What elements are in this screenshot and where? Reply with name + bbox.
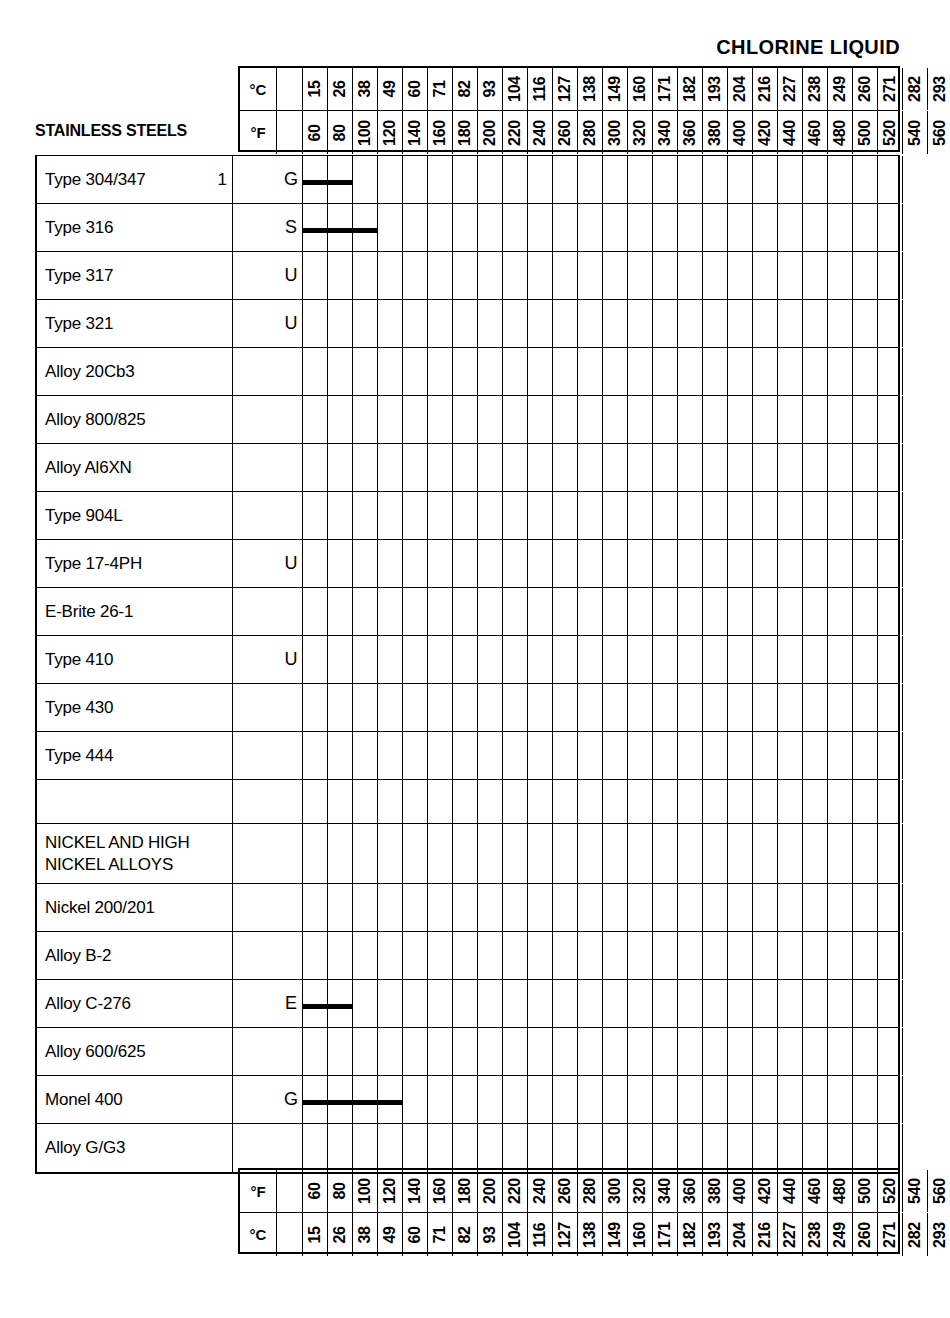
plot-gridline bbox=[827, 732, 828, 779]
axis-tick-label: 216 bbox=[756, 76, 774, 102]
axis-tick-fahrenheit-280: 280 bbox=[577, 1170, 602, 1212]
table-row[interactable]: Type 430 bbox=[37, 684, 898, 732]
table-row[interactable]: Type 444 bbox=[37, 732, 898, 780]
table-row[interactable]: Alloy 20Cb3 bbox=[37, 348, 898, 396]
axis-tick-label: 82 bbox=[456, 1226, 474, 1243]
plot-gridline bbox=[677, 636, 678, 683]
section-heading-label: NICKEL AND HIGH NICKEL ALLOYS bbox=[45, 824, 190, 883]
footnote-marker bbox=[187, 732, 227, 779]
axis-tick-celsius-227: 227 bbox=[777, 68, 802, 110]
table-row[interactable]: Alloy G/G3 bbox=[37, 1124, 898, 1172]
plot-gridline bbox=[752, 636, 753, 683]
plot-gridline bbox=[552, 636, 553, 683]
axis-tick-label: 460 bbox=[806, 120, 824, 146]
plot-gridline bbox=[602, 780, 603, 823]
plot-gridline bbox=[777, 300, 778, 347]
footnote-marker bbox=[187, 204, 227, 251]
table-row[interactable]: Alloy C-276E bbox=[37, 980, 898, 1028]
rating-code bbox=[280, 1028, 302, 1075]
axis-tick-celsius-138: 138 bbox=[577, 1213, 602, 1256]
alloy-name-label: Alloy 20Cb3 bbox=[45, 348, 134, 395]
axis-tick-celsius-293: 293 bbox=[927, 68, 950, 110]
plot-gridline bbox=[527, 348, 528, 395]
plot-gridline bbox=[802, 824, 803, 883]
axis-tick-label: 560 bbox=[931, 120, 949, 146]
axis-tick-fahrenheit-500: 500 bbox=[852, 111, 877, 154]
plot-gridline bbox=[527, 824, 528, 883]
table-row[interactable]: Type 304/3471G bbox=[37, 156, 898, 204]
plot-gridline bbox=[377, 492, 378, 539]
alloy-name-label: Type 317 bbox=[45, 252, 113, 299]
plot-gridline bbox=[752, 300, 753, 347]
table-row[interactable]: Type 904L bbox=[37, 492, 898, 540]
axis-tick-fahrenheit-520: 520 bbox=[877, 1170, 902, 1212]
table-row[interactable] bbox=[37, 780, 898, 824]
axis-tick-celsius-38: 38 bbox=[352, 68, 377, 110]
axis-tick-label: 138 bbox=[581, 76, 599, 102]
alloy-name-label: Monel 400 bbox=[45, 1076, 123, 1123]
table-row[interactable]: Alloy B-2 bbox=[37, 932, 898, 980]
table-row[interactable]: NICKEL AND HIGH NICKEL ALLOYS bbox=[37, 824, 898, 884]
plot-gridline bbox=[777, 252, 778, 299]
table-row[interactable]: Type 17-4PHU bbox=[37, 540, 898, 588]
axis-tick-celsius-149: 149 bbox=[602, 68, 627, 110]
plot-gridline bbox=[627, 684, 628, 731]
plot-gridline bbox=[652, 824, 653, 883]
plot-gridline bbox=[777, 444, 778, 491]
alloy-name-label: Type 321 bbox=[45, 300, 113, 347]
top-axis-fahrenheit-row: °F 6080100120140160180200220240260280300… bbox=[240, 111, 898, 154]
plot-gridline bbox=[527, 492, 528, 539]
table-row[interactable]: Alloy 800/825 bbox=[37, 396, 898, 444]
plot-gridline bbox=[827, 540, 828, 587]
plot-gridline bbox=[902, 588, 903, 635]
plot-gridline bbox=[577, 636, 578, 683]
plot-gridline bbox=[627, 980, 628, 1027]
axis-tick-celsius-249: 249 bbox=[827, 68, 852, 110]
axis-tick-label: 200 bbox=[481, 1178, 499, 1204]
plot-gridline bbox=[352, 884, 353, 931]
axis-tick-label: 82 bbox=[456, 80, 474, 97]
axis-tick-fahrenheit-340: 340 bbox=[652, 111, 677, 154]
table-row[interactable]: Type 317U bbox=[37, 252, 898, 300]
name-column-divider bbox=[232, 156, 233, 203]
axis-tick-label: 227 bbox=[781, 1222, 799, 1248]
axis-tick-label: 127 bbox=[556, 76, 574, 102]
plot-gridline bbox=[902, 1076, 903, 1123]
plot-gridline bbox=[677, 884, 678, 931]
axis-tick-celsius-116: 116 bbox=[527, 1213, 552, 1256]
axis-tick-fahrenheit-480: 480 bbox=[827, 1170, 852, 1212]
fahrenheit-unit-label-top: °F bbox=[240, 111, 277, 154]
plot-gridline bbox=[902, 824, 903, 883]
temperature-plot-cell bbox=[302, 884, 902, 931]
plot-gridline bbox=[527, 588, 528, 635]
plot-gridline bbox=[527, 396, 528, 443]
table-row[interactable]: Type 321U bbox=[37, 300, 898, 348]
table-row[interactable]: Alloy Al6XN bbox=[37, 444, 898, 492]
plot-gridline bbox=[402, 684, 403, 731]
rating-code: U bbox=[280, 300, 302, 347]
plot-gridline bbox=[552, 444, 553, 491]
table-row[interactable]: Monel 400G bbox=[37, 1076, 898, 1124]
plot-gridline bbox=[402, 1124, 403, 1172]
table-row[interactable]: E-Brite 26-1 bbox=[37, 588, 898, 636]
plot-gridline bbox=[752, 1124, 753, 1172]
plot-gridline bbox=[627, 1124, 628, 1172]
axis-tick-label: 100 bbox=[356, 1178, 374, 1204]
plot-gridline bbox=[527, 780, 528, 823]
axis-tick-label: 60 bbox=[406, 1226, 424, 1243]
axis-tick-celsius-193: 193 bbox=[702, 68, 727, 110]
plot-gridline bbox=[902, 684, 903, 731]
plot-gridline bbox=[427, 980, 428, 1027]
table-row[interactable]: Nickel 200/201 bbox=[37, 884, 898, 932]
plot-gridline bbox=[752, 396, 753, 443]
plot-gridline bbox=[602, 156, 603, 203]
temperature-plot-cell bbox=[302, 492, 902, 539]
table-row[interactable]: Alloy 600/625 bbox=[37, 1028, 898, 1076]
axis-tick-celsius-260: 260 bbox=[852, 1213, 877, 1256]
plot-gridline bbox=[652, 732, 653, 779]
axis-tick-label: 80 bbox=[331, 124, 349, 141]
table-row[interactable]: Type 410U bbox=[37, 636, 898, 684]
plot-gridline bbox=[352, 588, 353, 635]
table-row[interactable]: Type 316S bbox=[37, 204, 898, 252]
axis-tick-fahrenheit-120: 120 bbox=[377, 1170, 402, 1212]
